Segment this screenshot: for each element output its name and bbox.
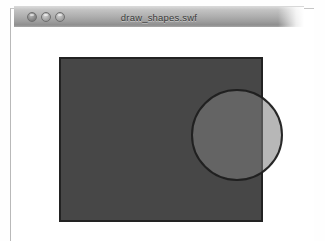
close-button[interactable] <box>27 12 37 22</box>
screenshot-page: draw_shapes.swf <box>0 0 325 241</box>
window-controls <box>27 12 65 22</box>
minimize-button[interactable] <box>41 12 51 22</box>
stage-canvas <box>14 27 304 233</box>
flash-stage <box>14 27 304 233</box>
application-window: draw_shapes.swf <box>14 6 304 233</box>
circle-shape <box>192 90 282 180</box>
zoom-button[interactable] <box>55 12 65 22</box>
window-titlebar[interactable]: draw_shapes.swf <box>14 6 304 27</box>
